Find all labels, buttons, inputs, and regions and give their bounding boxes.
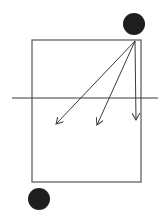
arrow-middle-icon (97, 41, 135, 125)
arrow-group (56, 41, 136, 125)
arrow-vertical-icon (135, 41, 136, 120)
container-rectangle (32, 40, 141, 182)
dot-group (28, 13, 145, 210)
diagram-canvas (0, 0, 168, 219)
bottom-left-dot (28, 188, 50, 210)
arrow-left-icon (56, 41, 135, 124)
top-right-dot (123, 13, 145, 35)
